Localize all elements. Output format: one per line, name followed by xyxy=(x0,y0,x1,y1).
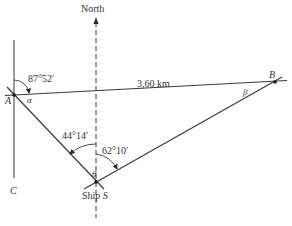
point-s-dot xyxy=(94,180,98,184)
ship-prefix-text: Ship xyxy=(82,190,100,201)
theta-label: θ xyxy=(92,169,97,179)
alpha-label: α xyxy=(27,95,32,105)
point-b-label: B xyxy=(269,69,275,80)
point-a-dot xyxy=(12,93,16,97)
diagram-svg: North 87°52′ 3,60 km B β A α 44°14′ 62°1… xyxy=(0,0,292,226)
beta-label: β xyxy=(242,87,248,97)
triangulation-diagram: North 87°52′ 3,60 km B β A α 44°14′ 62°1… xyxy=(0,0,292,226)
point-b-dot xyxy=(273,80,277,84)
angle-a-label: 87°52′ xyxy=(28,73,54,84)
arc-angle-s-east xyxy=(96,154,117,169)
north-arrow-icon xyxy=(94,17,99,24)
ship-label: Ship S xyxy=(82,190,108,201)
ship-s-text: S xyxy=(103,190,108,201)
line-s-b xyxy=(84,77,282,189)
north-label: North xyxy=(81,3,104,14)
line-a-s xyxy=(7,87,104,189)
angle-s-east-label: 62°10′ xyxy=(102,145,128,156)
arc-angle-s-west xyxy=(70,144,96,154)
point-c-label: C xyxy=(10,185,17,196)
point-a-label: A xyxy=(4,95,12,106)
arc-angle-a xyxy=(14,80,29,93)
angle-s-west-label: 44°14′ xyxy=(62,130,88,141)
distance-label: 3,60 km xyxy=(137,78,170,89)
